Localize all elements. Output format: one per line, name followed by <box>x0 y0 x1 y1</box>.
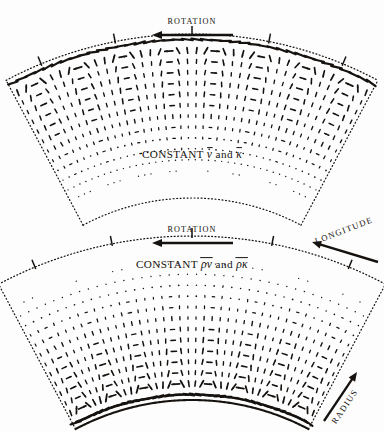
flow-arrow-shaft <box>300 134 301 137</box>
flow-arrow-shaft <box>242 331 243 334</box>
flow-dot <box>149 162 151 164</box>
flow-arrow-shaft <box>128 312 131 313</box>
flow-arrow-shaft <box>304 124 305 127</box>
flow-dot <box>79 291 80 292</box>
flow-arrow-shaft <box>312 127 313 130</box>
flow-arrow-shaft <box>50 373 52 376</box>
flow-dot <box>117 147 119 149</box>
flow-dot <box>102 307 104 309</box>
flow-arrow-shaft <box>155 373 156 377</box>
flow-arrow-shaft <box>83 134 84 136</box>
flow-arrow-shaft <box>60 392 62 396</box>
flow-dot <box>314 176 316 178</box>
flow-dot <box>98 176 99 177</box>
flow-dot <box>104 174 105 175</box>
flow-arrow-shaft <box>275 327 276 330</box>
flow-dot <box>315 189 316 190</box>
flow-dot <box>116 292 118 294</box>
flow-dot <box>307 280 308 281</box>
flow-arrow-shaft <box>278 317 279 319</box>
flow-arrow-shaft <box>88 322 91 323</box>
flow-dot <box>90 191 91 192</box>
lower-panel-inner-arc <box>76 400 309 429</box>
flow-dot <box>73 186 74 187</box>
flow-arrow-shaft <box>265 336 266 339</box>
flow-dot <box>78 196 79 197</box>
upper-panel-rotation-arrow-head <box>152 31 162 39</box>
flow-dot <box>169 285 171 287</box>
radius-arrow-head <box>349 372 357 382</box>
flow-dot <box>151 287 153 289</box>
flow-arrow-shaft <box>85 334 86 337</box>
flow-dot <box>84 193 85 194</box>
flow-arrow-shaft <box>118 336 119 339</box>
flow-dot <box>99 296 101 298</box>
flow-arrow-shaft <box>40 353 41 356</box>
flow-arrow-shaft <box>237 95 238 98</box>
flow-dot <box>280 307 282 309</box>
flow-dot <box>88 288 89 289</box>
flow-dot <box>110 305 112 307</box>
flow-arrow-shaft <box>360 101 361 104</box>
flow-dot <box>23 301 24 302</box>
flow-arrow-shaft <box>252 322 253 326</box>
flow-arrow-shaft <box>117 112 118 115</box>
flow-arrow-shaft <box>335 350 336 353</box>
flow-dot <box>298 278 299 279</box>
flow-arrow-shaft <box>104 127 105 130</box>
flow-arrow-shaft <box>350 120 352 123</box>
flow-arrow-shaft <box>301 370 302 373</box>
flow-dot <box>334 313 336 315</box>
flow-arrow-shaft <box>263 346 264 349</box>
flow-arrow-shaft <box>101 116 102 120</box>
flow-dot <box>261 269 262 270</box>
flow-dot <box>155 161 156 162</box>
flow-dot <box>234 162 235 163</box>
flow-arrow-shaft <box>323 96 325 100</box>
flow-dot <box>138 176 139 177</box>
flow-arrow-shaft <box>137 85 138 89</box>
upper-panel-caption-text: CONSTANT ν and κ <box>142 148 242 161</box>
flow-arrow-shaft <box>108 137 109 140</box>
flow-arrow-shaft <box>97 319 98 322</box>
flow-dot <box>114 282 115 283</box>
flow-arrow-shaft <box>233 341 234 345</box>
flow-dot <box>350 321 352 323</box>
flow-arrow-shaft <box>323 119 325 123</box>
flow-arrow-shaft <box>22 101 23 104</box>
flow-arrow-shaft <box>45 327 47 328</box>
flow-arrow-shaft <box>316 116 317 119</box>
flow-dot <box>330 300 331 301</box>
flow-arrow-shaft <box>134 120 135 124</box>
flow-dot <box>150 276 151 277</box>
flow-dot <box>259 280 260 281</box>
flow-arrow-shaft <box>81 370 82 373</box>
flow-arrow-shaft <box>297 380 299 383</box>
flow-arrow-shaft <box>92 355 93 359</box>
flow-arrow-shaft <box>59 156 60 158</box>
flow-arrow-shaft <box>59 96 60 99</box>
flow-arrow-shaft <box>32 120 34 123</box>
flow-arrow-shaft <box>261 99 262 103</box>
figure-canvas: ROTATIONCONSTANT ν and κROTATIONCONSTANT… <box>0 0 384 432</box>
radius-annotation: RADIUS <box>324 372 360 426</box>
flow-arrow-shaft <box>52 359 54 363</box>
flow-arrow-shaft <box>305 360 306 363</box>
flow-dot <box>195 137 197 139</box>
flow-dot <box>49 313 51 315</box>
flow-arrow-shaft <box>54 346 56 349</box>
flow-arrow-shaft <box>81 347 82 350</box>
flow-arrow-shaft <box>304 148 305 150</box>
flow-arrow-shaft <box>140 320 141 324</box>
flow-dot <box>242 153 244 155</box>
flow-dot <box>297 181 298 182</box>
flow-dot <box>162 161 163 162</box>
flow-arrow-shaft <box>342 318 344 319</box>
flow-arrow-shaft <box>264 123 265 125</box>
flow-dot <box>168 274 170 276</box>
flow-arrow-shaft <box>279 93 280 97</box>
flow-arrow-shaft <box>280 339 281 343</box>
flow-arrow-shaft <box>85 380 87 384</box>
flow-arrow-shaft <box>61 379 62 383</box>
flow-dot <box>257 290 259 292</box>
